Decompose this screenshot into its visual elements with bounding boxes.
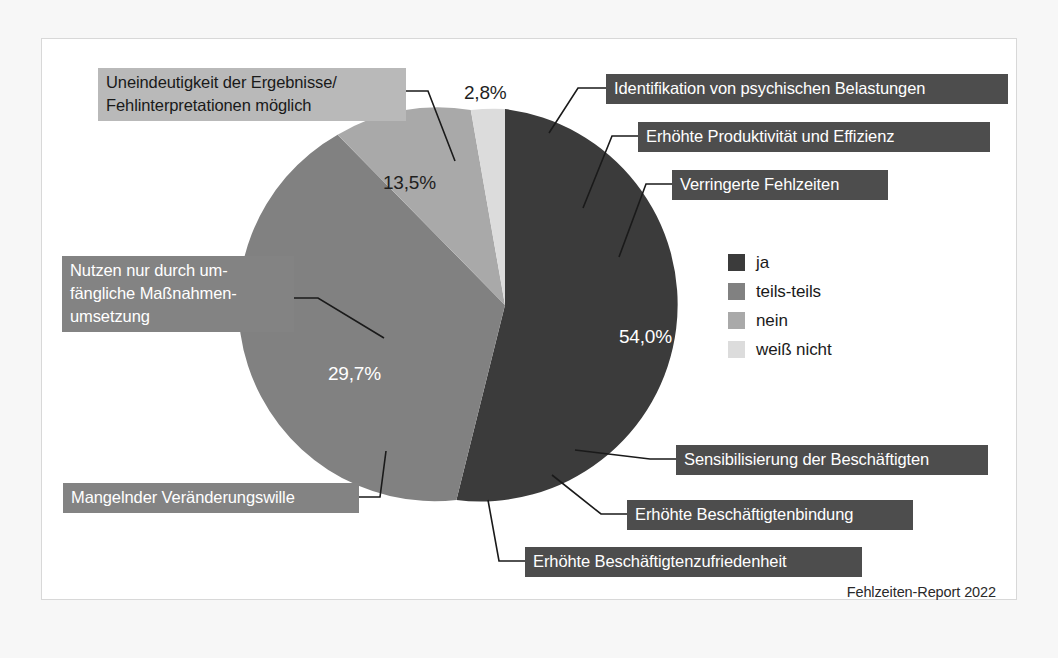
legend-item-teils-teils: teils-teils [728,277,908,306]
callout-erhoehte-beschaeftigtenbindung: Erhöhte Beschäftigtenbindung [627,500,913,530]
leader-line-nutzen [294,298,384,338]
callout-erhoehte-produktivitaet: Erhöhte Produktivität und Effizienz [638,122,990,152]
chart-area: 54,0% 29,7% 13,5% 2,8% Uneindeutigkeit d… [0,0,1058,658]
legend-label-teils-teils: teils-teils [756,282,821,302]
callout-sensibilisierung-beschaeftigten: Sensibilisierung der Beschäftigten [676,445,988,475]
legend-item-weiss-nicht: weiß nicht [728,335,908,364]
callout-mangelnder-veraenderungswille: Mangelnder Veränderungswille [63,483,359,513]
legend-item-ja: ja [728,248,908,277]
leader-line-zufriedenheit [488,500,525,561]
legend: ja teils-teils nein weiß nicht [728,248,908,364]
callout-nutzen-massnahmenumsetzung: Nutzen nur durch um- fängliche Maßnahmen… [62,256,294,332]
legend-swatch-icon-nein [728,312,745,329]
callout-identifikation-belastungen: Identifikation von psychischen Belastung… [606,74,1008,104]
pie-chart-figure: 54,0% 29,7% 13,5% 2,8% Uneindeutigkeit d… [0,0,1058,658]
callout-uneindeutigkeit: Uneindeutigkeit der Ergebnisse/ Fehlinte… [98,68,406,121]
leader-line-uneindeutigkeit [404,91,455,161]
pie-value-label-nein: 13,5% [383,172,436,194]
pie-slice-nein [338,107,505,305]
leader-line-produktivitaet [583,136,638,208]
pie-value-label-ja: 54,0% [619,326,672,348]
pie-value-label-teils-teils: 29,7% [328,363,381,385]
legend-swatch-icon-teils-teils [728,283,745,300]
pie-value-label-weiss-nicht: 2,8% [464,82,507,104]
legend-label-nein: nein [756,311,788,331]
leader-line-identifikation [549,88,606,133]
legend-swatch-icon-ja [728,254,745,271]
leader-line-veraenderungswille [359,451,386,497]
pie-slice-ja [456,109,677,501]
legend-label-ja: ja [756,253,769,273]
source-note: Fehlzeiten-Report 2022 [847,584,996,600]
leader-line-beschaeftigtenbindung [552,475,627,514]
legend-label-weiss-nicht: weiß nicht [756,340,832,360]
callout-verringerte-fehlzeiten: Verringerte Fehlzeiten [672,170,888,200]
legend-swatch-icon-weiss-nicht [728,341,745,358]
legend-item-nein: nein [728,306,908,335]
leader-line-fehlzeiten [619,184,672,257]
pie-slice-weiss-nicht [471,109,505,305]
leader-line-sensibilisierung [575,450,676,459]
callout-erhoehte-beschaeftigtenzufriedenheit: Erhöhte Beschäftigtenzufriedenheit [525,547,862,577]
